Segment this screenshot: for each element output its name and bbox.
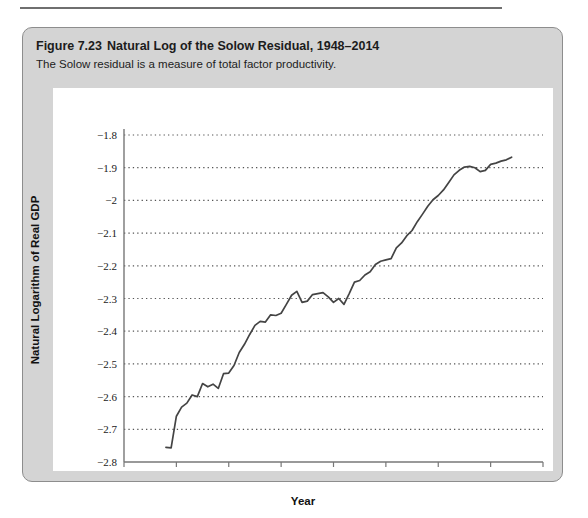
- line-chart: −2.8−2.7−2.6−2.5−2.4−2.3−2.2−2.1−2−1.9−1…: [53, 88, 553, 471]
- x-tick-label: 1970: [270, 470, 293, 471]
- figure-subtitle: The Solow residual is a measure of total…: [36, 56, 551, 72]
- x-tick-label: 1990: [375, 470, 398, 471]
- y-tick-label: −1.9: [97, 162, 117, 174]
- y-tick-label: −2.7: [97, 423, 117, 435]
- x-tick-label: 2010: [480, 470, 503, 471]
- y-tick-label: −1.8: [97, 129, 117, 141]
- figure-card: Figure 7.23Natural Log of the Solow Resi…: [22, 27, 563, 482]
- chart-axes-area: −2.8−2.7−2.6−2.5−2.4−2.3−2.2−2.1−2−1.9−1…: [53, 88, 553, 471]
- x-axis-title: Year: [291, 495, 315, 507]
- y-tick-label: −2: [105, 194, 117, 206]
- x-tick-label: 2000: [427, 470, 450, 471]
- x-tick-label: 1960: [218, 470, 241, 471]
- figure-number: Figure 7.23: [36, 39, 102, 53]
- y-tick-label: −2.8: [97, 456, 117, 468]
- y-axis-title: Natural Logarithm of Real GDP: [29, 195, 41, 364]
- figure-title: Natural Log of the Solow Residual, 1948–…: [107, 39, 379, 53]
- plot-panel: −2.8−2.7−2.6−2.5−2.4−2.3−2.2−2.1−2−1.9−1…: [53, 88, 553, 471]
- y-tick-label: −2.1: [97, 227, 117, 239]
- x-tick-label: 2020: [532, 470, 553, 471]
- x-tick-label: 1950: [165, 470, 188, 471]
- x-tick-label: 1980: [323, 470, 346, 471]
- data-series-line: [166, 157, 512, 448]
- y-tick-label: −2.2: [97, 260, 117, 272]
- page-top-rule: [20, 7, 502, 9]
- figure-caption: Figure 7.23Natural Log of the Solow Resi…: [36, 38, 551, 72]
- x-tick-label: 1940: [113, 470, 136, 471]
- y-tick-label: −2.5: [97, 358, 117, 370]
- y-tick-label: −2.4: [97, 325, 117, 337]
- y-tick-label: −2.3: [97, 293, 117, 305]
- y-tick-label: −2.6: [97, 391, 117, 403]
